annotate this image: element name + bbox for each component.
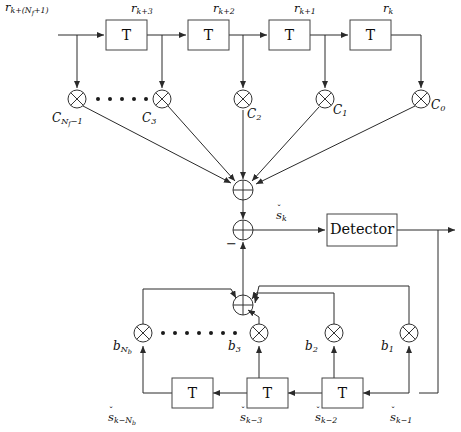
fb-signal-label-k1: ˇsk−1 xyxy=(390,412,412,425)
fb-delay-box-label-2: T xyxy=(247,386,288,400)
sum-in-cnf1 xyxy=(83,106,231,183)
coef-label-b2: b2 xyxy=(305,340,318,353)
coef-label-c0: C0 xyxy=(431,99,445,112)
diagram-canvas xyxy=(0,0,461,432)
coef-label-c2: C2 xyxy=(247,108,261,121)
sum-in-c0 xyxy=(256,106,415,184)
sum-in-c3 xyxy=(168,106,235,181)
delay-box-label-3: T xyxy=(269,28,310,42)
fb-signal-label-knb: ˇsk−Nb xyxy=(108,412,136,426)
coef-label-bnb: bNb xyxy=(113,340,132,355)
main-adder-minus-sign: − xyxy=(226,236,237,251)
feedforward-ellipsis xyxy=(96,97,148,101)
dfe-block-diagram: rk+(Nf+1) rk+3 rk+2 rk+1 rk T T T T CNf−… xyxy=(0,0,461,432)
signal-label-k1: rk+1 xyxy=(294,3,316,16)
feedback-branch-wire xyxy=(419,230,438,393)
signal-label-k3: rk+3 xyxy=(131,3,153,16)
detector-label: Detector xyxy=(327,222,397,237)
signal-label-k: rk xyxy=(383,3,393,16)
feedback-sum-inputs xyxy=(143,286,409,333)
fb-signal-label-k3: ˇsk−3 xyxy=(240,412,262,425)
feedforward-adder xyxy=(233,180,253,200)
coef-label-c1: C1 xyxy=(333,104,347,117)
signal-label-k2: rk+2 xyxy=(213,3,235,16)
delay-box-label-4: T xyxy=(350,28,391,42)
fb-in-bnb xyxy=(143,289,236,333)
coef-label-c3: C3 xyxy=(142,112,156,125)
coef-label-b1: b1 xyxy=(381,340,394,353)
fb-delay-box-label-1: T xyxy=(322,386,363,400)
coef-label-b3: b3 xyxy=(228,340,241,353)
feedback-ellipsis xyxy=(161,331,237,335)
delay-box-label-1: T xyxy=(106,28,147,42)
detector-output-path xyxy=(397,230,455,393)
fb-signal-label-k2: ˇsk−2 xyxy=(315,412,337,425)
delay-box-label-2: T xyxy=(188,28,229,42)
fb-delay-box-label-3: T xyxy=(172,386,213,400)
signal-label-input: rk+(Nf+1) xyxy=(5,2,49,16)
signal-label-shat: ˇsk xyxy=(276,210,287,223)
tap-wire-4 xyxy=(391,35,421,88)
coef-label-cnf1: CNf−1 xyxy=(52,112,83,127)
